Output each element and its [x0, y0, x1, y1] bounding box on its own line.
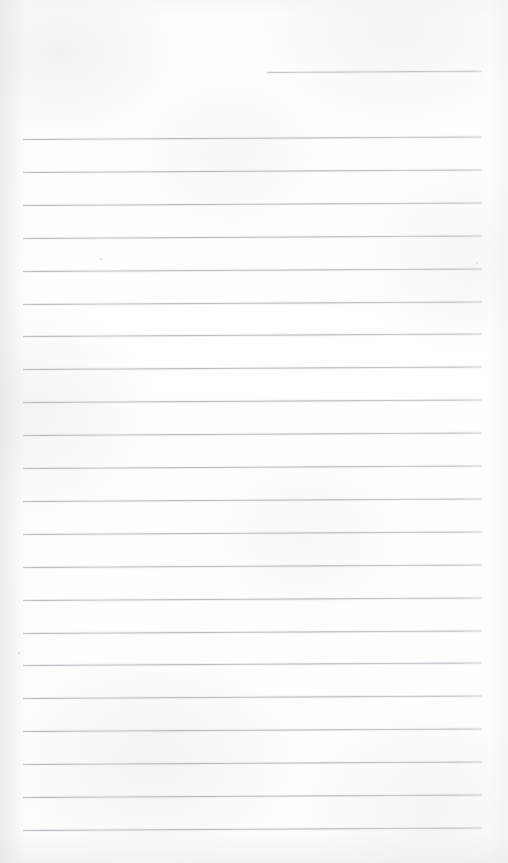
rule-10 [23, 433, 482, 437]
rule-21 [23, 794, 482, 798]
rule-17 [23, 663, 482, 667]
rule-03 [23, 202, 482, 206]
rule-04 [23, 235, 482, 239]
rule-20 [23, 762, 482, 766]
rule-22 [23, 827, 482, 831]
scanned-notepaper-page [0, 0, 508, 863]
rule-11 [23, 465, 482, 469]
rule-02 [23, 169, 482, 173]
rule-14 [23, 564, 482, 568]
rule-15 [23, 597, 482, 601]
rule-05 [23, 268, 482, 272]
rule-13 [23, 531, 482, 535]
rule-01 [23, 136, 482, 140]
ruled-lines-layer [0, 0, 508, 863]
rule-partial-top [267, 71, 482, 73]
rule-19 [23, 729, 482, 733]
rule-18 [23, 696, 482, 700]
rule-08 [23, 367, 482, 371]
rule-16 [23, 630, 482, 634]
rule-09 [23, 400, 482, 404]
rule-07 [23, 334, 482, 338]
rule-06 [23, 301, 482, 305]
rule-12 [23, 498, 482, 502]
